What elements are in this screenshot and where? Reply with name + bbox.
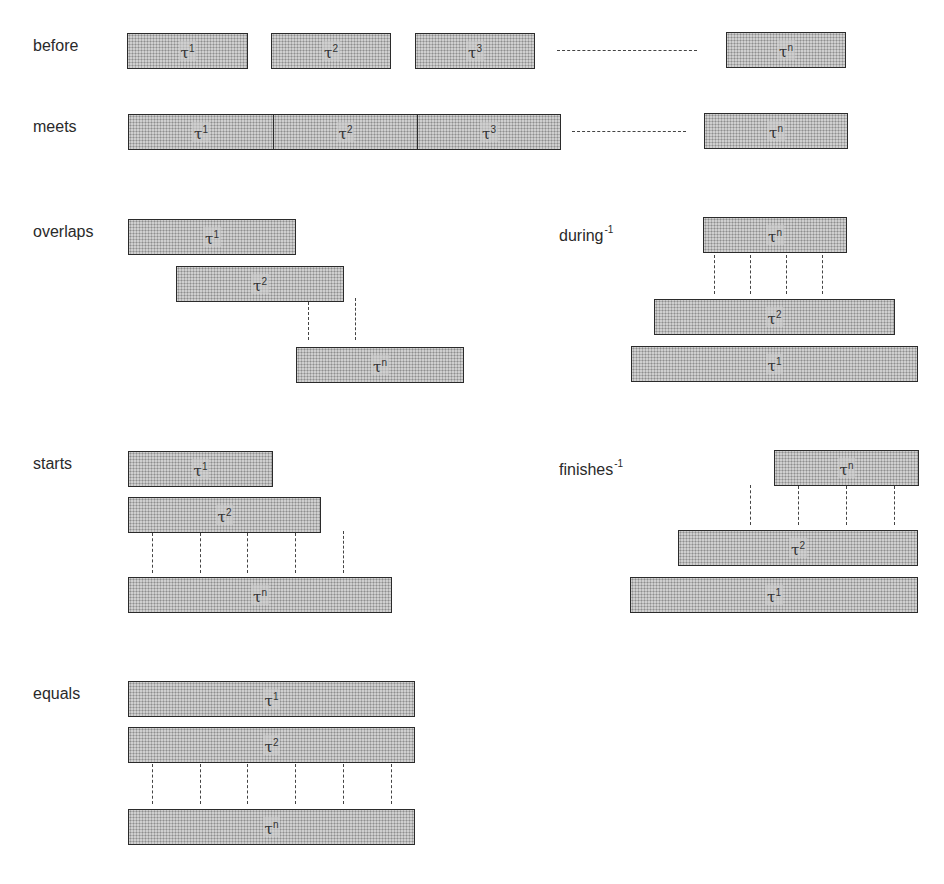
alignment-dash: [247, 764, 248, 804]
interval-label: τn: [767, 121, 785, 141]
interval-bar-during-2: τ2: [654, 299, 895, 335]
interval-bar-before-n: τn: [726, 32, 846, 68]
alignment-dash: [355, 298, 356, 340]
alignment-dash: [152, 533, 153, 573]
ellipsis-dash-before: [557, 50, 697, 51]
interval-label: τ2: [263, 735, 281, 755]
interval-label: τ2: [322, 41, 340, 61]
interval-bar-equals-n: τn: [128, 809, 415, 845]
interval-label: τ2: [766, 307, 784, 327]
relation-label-equals: equals: [33, 685, 80, 703]
interval-bar-overlaps-n: τn: [296, 347, 464, 383]
interval-label: τ2: [337, 122, 355, 142]
relation-label-before: before: [33, 37, 78, 55]
alignment-dash: [714, 255, 715, 294]
interval-bar-equals-1: τ1: [128, 681, 415, 717]
interval-label: τ2: [251, 274, 269, 294]
interval-label: τn: [371, 355, 389, 375]
interval-bar-meets-n: τn: [704, 113, 848, 149]
alignment-dash: [152, 764, 153, 804]
interval-label: τ1: [192, 122, 210, 142]
interval-bar-overlaps-1: τ1: [128, 219, 296, 255]
interval-label: τ1: [765, 585, 783, 605]
interval-label: τ3: [480, 122, 498, 142]
alignment-dash: [846, 486, 847, 525]
interval-bar-starts-n: τn: [128, 577, 392, 613]
figure-caption-cutoff: [26, 874, 446, 884]
interval-label: τn: [766, 225, 784, 245]
interval-label: τn: [263, 817, 281, 837]
relation-label-during-inverse: during-1: [559, 221, 613, 245]
alignment-dash: [200, 533, 201, 573]
relation-label-overlaps: overlaps: [33, 223, 93, 241]
interval-bar-starts-2: τ2: [128, 497, 321, 533]
relation-label-finishes-inverse: finishes-1: [559, 455, 623, 479]
interval-label: τ1: [203, 227, 221, 247]
interval-bar-before-1: τ1: [127, 33, 248, 69]
interval-label: τ2: [216, 505, 234, 525]
relation-label-starts: starts: [33, 455, 72, 473]
interval-bar-starts-1: τ1: [128, 451, 273, 487]
interval-bar-meets-2: τ2: [273, 114, 418, 150]
interval-bar-meets-1: τ1: [128, 114, 274, 150]
alignment-dash: [308, 302, 309, 340]
interval-label: τ1: [179, 41, 197, 61]
alignment-dash: [295, 533, 296, 573]
interval-bar-during-n: τn: [703, 217, 847, 253]
alignment-dash: [822, 255, 823, 294]
alignment-dash: [343, 764, 344, 804]
relation-label-meets: meets: [33, 118, 77, 136]
interval-bar-overlaps-2: τ2: [176, 266, 344, 302]
interval-label: τn: [777, 40, 795, 60]
alignment-dash: [894, 486, 895, 525]
alignment-dash: [798, 486, 799, 525]
interval-bar-before-3: τ3: [415, 33, 535, 69]
interval-label: τn: [838, 458, 856, 478]
alignment-dash: [343, 531, 344, 573]
interval-bar-finishes-n: τn: [774, 450, 919, 486]
ellipsis-dash-meets: [572, 131, 686, 132]
alignment-dash: [200, 764, 201, 804]
alignment-dash: [750, 255, 751, 294]
interval-bar-before-2: τ2: [271, 33, 391, 69]
interval-bar-during-1: τ1: [631, 346, 918, 382]
interval-label: τ1: [766, 354, 784, 374]
interval-label: τ2: [789, 538, 807, 558]
interval-bar-finishes-1: τ1: [630, 577, 918, 613]
interval-label: τ1: [192, 459, 210, 479]
alignment-dash: [391, 764, 392, 804]
interval-bar-meets-3: τ3: [417, 114, 561, 150]
alignment-dash: [295, 764, 296, 804]
alignment-dash: [247, 533, 248, 573]
interval-bar-equals-2: τ2: [128, 727, 415, 763]
interval-label: τn: [251, 585, 269, 605]
interval-label: τ3: [466, 41, 484, 61]
interval-label: τ1: [263, 689, 281, 709]
alignment-dash: [786, 255, 787, 294]
alignment-dash: [750, 485, 751, 525]
interval-bar-finishes-2: τ2: [678, 530, 918, 566]
